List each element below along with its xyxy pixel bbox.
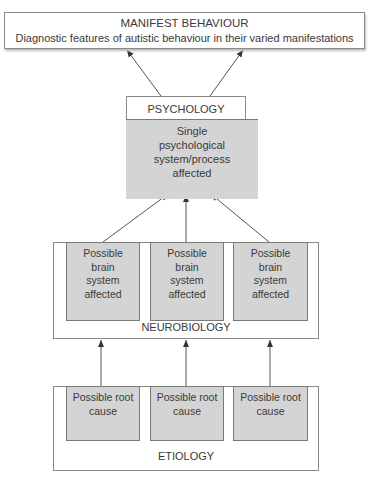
brain-system-box-1: Possible brain system affected xyxy=(66,242,140,321)
etiology-title: ETIOLOGY xyxy=(54,450,318,463)
arrow-brain1-to-psych xyxy=(103,194,168,242)
psychology-title: PSYCHOLOGY xyxy=(127,103,245,116)
brain-system-box-3: Possible brain system affected xyxy=(233,242,308,321)
etiology-box: Possible root cause Possible root cause … xyxy=(53,386,319,471)
arrow-psych-to-manifest-right xyxy=(210,50,243,96)
root-cause-label-2: Possible root cause xyxy=(154,391,220,418)
brain-system-label-3: Possible brain system affected xyxy=(243,247,299,301)
brain-system-box-2: Possible brain system affected xyxy=(150,242,224,321)
psychology-box: PSYCHOLOGY Single psychological system/p… xyxy=(126,96,246,194)
root-cause-label-1: Possible root cause xyxy=(70,391,136,418)
neurobiology-box: Possible brain system affected Possible … xyxy=(53,242,319,339)
manifest-behaviour-subtitle: Diagnostic features of autistic behaviou… xyxy=(5,32,364,45)
brain-system-label-1: Possible brain system affected xyxy=(75,247,131,301)
root-cause-box-3: Possible root cause xyxy=(233,386,308,441)
arrow-psych-to-manifest-left xyxy=(127,50,161,96)
arrow-brain3-to-psych xyxy=(211,194,269,242)
psychology-process-box: Single psychological system/process affe… xyxy=(126,119,258,199)
root-cause-label-3: Possible root cause xyxy=(238,391,304,418)
neurobiology-title: NEUROBIOLOGY xyxy=(54,321,318,334)
psychology-process-label: Single psychological system/process affe… xyxy=(146,124,238,180)
root-cause-box-1: Possible root cause xyxy=(66,386,140,441)
brain-system-label-2: Possible brain system affected xyxy=(159,247,215,301)
manifest-behaviour-box: MANIFEST BEHAVIOUR Diagnostic features o… xyxy=(4,12,365,49)
root-cause-box-2: Possible root cause xyxy=(150,386,224,441)
manifest-behaviour-title: MANIFEST BEHAVIOUR xyxy=(5,17,364,30)
